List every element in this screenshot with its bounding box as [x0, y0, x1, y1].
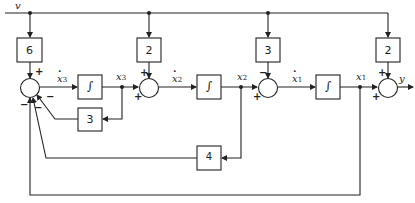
- gain-value-4-feedback: 4: [197, 152, 221, 162]
- integrator-symbol-2: ∫: [197, 80, 221, 92]
- gain-value-3-top: 3: [256, 45, 280, 56]
- sign-sum1-x1: −: [20, 100, 28, 110]
- sign-sum1-top: +: [35, 67, 43, 77]
- diagram-wiring: [0, 0, 415, 203]
- signal-x2-dot: x2: [172, 74, 182, 84]
- sign-sum1-x3: −: [46, 92, 54, 102]
- gain-value-2-right: 2: [376, 45, 400, 56]
- sign-sum2-top: +: [140, 68, 148, 78]
- branch-point-2: [147, 11, 151, 15]
- gain-value-6: 6: [17, 45, 42, 56]
- gain-value-2-top: 2: [137, 45, 161, 56]
- sign-sum4-left: +: [372, 92, 380, 102]
- signal-x3-dot: x3: [57, 74, 67, 84]
- sum-junction-4: [379, 79, 398, 98]
- branch-point-1: [28, 11, 32, 15]
- sign-sum2-left: +: [134, 92, 142, 102]
- sign-sum1-x2: −: [34, 103, 42, 113]
- sum-junction-1: [21, 79, 40, 98]
- integrator-symbol-1: ∫: [78, 80, 102, 92]
- signal-x3: x3: [116, 72, 126, 82]
- sign-sum3-top: −: [259, 68, 267, 78]
- node-x1: [358, 85, 362, 89]
- block-diagram: v y 6 2 3 2 3 4 ∫ ∫ ∫ x3 x3 x2 x2 x1 x1 …: [0, 0, 415, 203]
- sign-sum4-top: +: [378, 68, 386, 78]
- node-x3: [120, 85, 124, 89]
- gain-value-3-feedback: 3: [78, 114, 102, 125]
- branch-point-3: [266, 11, 270, 15]
- input-label: v: [15, 1, 21, 11]
- signal-x1-dot: x1: [292, 74, 302, 84]
- sign-sum3-left: +: [253, 92, 261, 102]
- signal-x1: x1: [356, 72, 366, 82]
- signal-x2: x2: [237, 72, 247, 82]
- node-x2: [239, 85, 243, 89]
- output-label: y: [399, 74, 405, 84]
- integrator-symbol-3: ∫: [316, 80, 340, 92]
